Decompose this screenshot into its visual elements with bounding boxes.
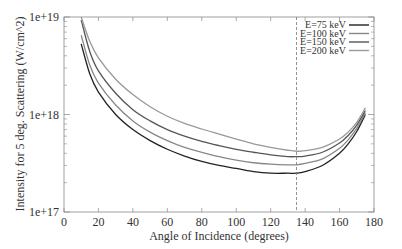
x-tick-label: 20 — [92, 215, 104, 229]
legend-label: E=200 keV — [300, 45, 347, 56]
x-tick-label: 0 — [61, 215, 67, 229]
x-tick-label: 100 — [227, 215, 245, 229]
y-axis-label: Intensity for 5 deg. Scattering (W/cm^2) — [13, 17, 27, 212]
curve-0 — [81, 44, 365, 173]
x-axis-label: Angle of Incidence (degrees) — [149, 229, 289, 243]
x-tick-label: 60 — [161, 215, 173, 229]
x-tick-label: 180 — [365, 215, 383, 229]
x-tick-label: 160 — [331, 215, 349, 229]
legend: E=75 keVE=100 keVE=150 keVE=200 keV — [300, 19, 369, 56]
x-tick-label: 120 — [262, 215, 280, 229]
x-tick-label: 80 — [196, 215, 208, 229]
chart: 0204060801001201401601801e+171e+181e+19 … — [0, 0, 402, 249]
x-tick-label: 140 — [296, 215, 314, 229]
x-tick-label: 40 — [127, 215, 139, 229]
y-tick-label: 1e+19 — [29, 10, 59, 24]
y-tick-label: 1e+18 — [29, 108, 59, 122]
y-tick-label: 1e+17 — [29, 205, 59, 219]
